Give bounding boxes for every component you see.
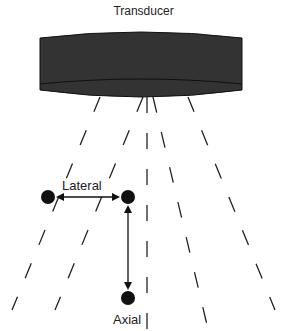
transducer-label: Transducer [0, 4, 287, 18]
axial-resolution-label: Axial [113, 312, 141, 327]
right-point [121, 190, 135, 204]
beam-lines [12, 97, 275, 330]
beam-line [188, 97, 275, 310]
beam-line [12, 97, 100, 310]
lateral-resolution-label: Lateral [62, 178, 102, 193]
left-point [41, 190, 55, 204]
resolution-arrows [58, 197, 128, 288]
transducer-shape [40, 32, 242, 97]
bottom-point [121, 291, 135, 305]
beam-line [153, 97, 207, 325]
ultrasound-resolution-diagram [0, 0, 287, 331]
